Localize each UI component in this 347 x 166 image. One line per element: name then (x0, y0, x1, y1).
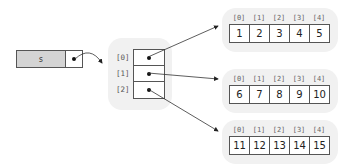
arrow-outer2-to-inner2 (148, 89, 218, 131)
pointer-arrows (0, 0, 347, 166)
arrow-s-to-outer (75, 53, 102, 63)
arrow-outer1-to-inner1 (148, 73, 218, 79)
arrow-outer0-to-inner0 (148, 26, 218, 57)
